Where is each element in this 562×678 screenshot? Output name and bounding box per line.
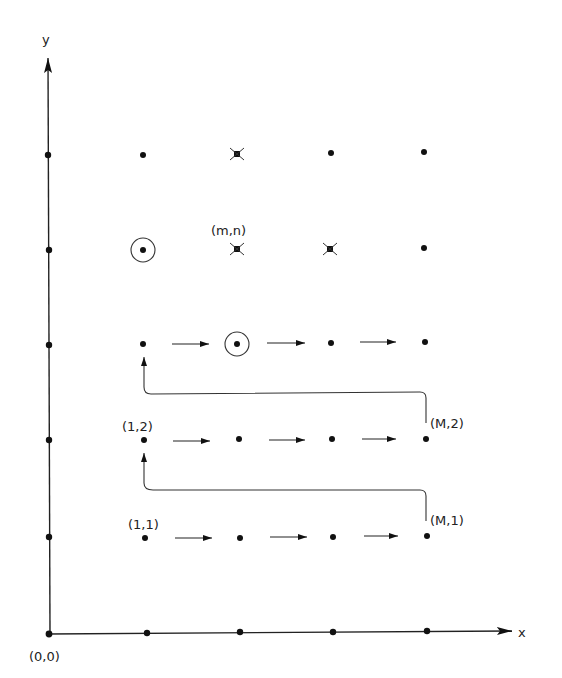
return-path-row1: [144, 453, 426, 521]
crossed-point: [323, 243, 337, 255]
row-1-arrows: [175, 536, 398, 538]
return-path-row2: [144, 357, 426, 423]
M-two-label: (M,2): [430, 416, 464, 431]
M-one-label: (M,1): [430, 513, 464, 528]
x-axis: [48, 631, 512, 634]
crossed-point-mn: [230, 243, 244, 255]
lattice-diagram: y x (0,0) (m,n): [0, 0, 562, 678]
row-3-arrows: [172, 342, 396, 344]
x-axis-label: x: [518, 625, 526, 640]
circled-point: [225, 332, 249, 356]
row-5-points: [140, 149, 427, 158]
one-one-label: (1,1): [128, 517, 159, 532]
row-2-arrows: [173, 439, 396, 441]
one-two-label: (1,2): [122, 419, 153, 434]
origin-label: (0,0): [29, 649, 60, 664]
grid-point: [421, 245, 427, 251]
circled-point: [131, 238, 155, 262]
crossed-point: [230, 148, 244, 160]
mn-label: (m,n): [211, 223, 246, 238]
y-axis-label: y: [42, 32, 50, 47]
